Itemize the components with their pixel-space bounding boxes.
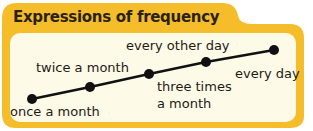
dot-three-times-a-month [144,69,154,79]
label-every-day: every day [235,66,300,82]
label-twice-a-month: twice a month [36,60,129,76]
dot-once-a-month [27,94,37,104]
label-once-a-month: once a month [10,104,100,120]
dot-twice-a-month [85,82,95,92]
label-three-times-line1: three times [157,79,232,95]
dot-every-day [269,45,279,55]
dot-every-other-day [201,57,211,67]
diagram-title: Expressions of frequency [13,8,219,26]
label-every-other-day: every other day [126,38,230,54]
label-three-times-line2: a month [157,96,211,112]
